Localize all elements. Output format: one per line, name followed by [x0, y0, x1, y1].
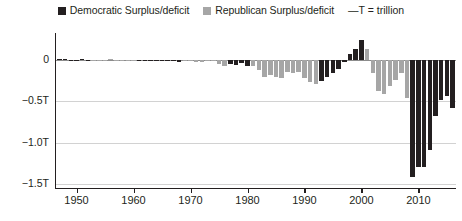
gridline-05T: [56, 101, 456, 102]
x-axis-tick-label: 1960: [121, 194, 145, 206]
bar-1987: [285, 60, 290, 72]
bar-1982: [257, 60, 262, 71]
x-axis-tick: [248, 188, 249, 193]
bar-1992: [314, 60, 319, 84]
x-axis-tick-label: 2010: [406, 194, 430, 206]
bar-1954: [97, 60, 102, 61]
x-axis-tick: [134, 188, 135, 193]
y-axis-tick-label: −1.5T: [0, 178, 49, 189]
y-axis-tick-label: −0.5T: [0, 95, 49, 106]
x-axis-tick: [77, 188, 78, 193]
bar-1979: [239, 60, 244, 63]
x-axis-tick-label: 1950: [64, 194, 88, 206]
bar-1975: [217, 60, 222, 64]
bar-2012: [428, 60, 433, 150]
bar-1991: [308, 60, 313, 82]
bar-1969: [183, 60, 188, 61]
x-axis-tick: [361, 188, 362, 193]
bar-2013: [433, 60, 438, 116]
bar-1976: [222, 60, 227, 66]
bar-1959: [126, 60, 131, 61]
bar-2014: [439, 60, 444, 100]
bar-1949: [69, 60, 74, 61]
bar-2006: [393, 60, 398, 81]
bar-1956: [108, 59, 113, 60]
x-axis-tick-label: 1970: [178, 194, 202, 206]
bar-1957: [114, 60, 119, 61]
budget-deficit-chart: Democratic Surplus/deficit Republican Su…: [0, 0, 462, 221]
bar-1958: [120, 60, 125, 61]
y-axis-tick-label: 0: [0, 54, 49, 65]
bar-1995: [331, 60, 336, 74]
square-swatch-icon: [203, 7, 211, 15]
bar-2003: [376, 60, 381, 91]
chart-legend: Democratic Surplus/deficit Republican Su…: [0, 5, 462, 16]
bar-1989: [296, 60, 301, 73]
legend-label-republican: Republican Surplus/deficit: [215, 5, 334, 16]
bar-1990: [302, 60, 307, 78]
bar-2000: [359, 40, 364, 60]
bar-1994: [325, 60, 330, 77]
bar-2010: [416, 60, 421, 167]
bar-1962: [143, 60, 148, 61]
bar-2004: [382, 60, 387, 94]
bar-1998: [348, 54, 353, 60]
bar-1971: [194, 60, 199, 62]
bar-1955: [103, 60, 108, 61]
gridline-15T: [56, 184, 456, 185]
plot-area: [56, 35, 456, 188]
bar-1964: [154, 60, 159, 61]
x-axis-tick-label: 1990: [292, 194, 316, 206]
bar-1999: [353, 49, 358, 59]
bar-1986: [279, 60, 284, 78]
bar-2007: [399, 60, 404, 73]
bar-1993: [319, 60, 324, 81]
x-axis-line: [55, 188, 456, 189]
legend-label-democratic: Democratic Surplus/deficit: [70, 5, 189, 16]
bar-1965: [160, 60, 165, 61]
x-axis-tick: [304, 188, 305, 193]
x-axis-tick: [418, 188, 419, 193]
bar-2001: [365, 49, 370, 60]
bar-1963: [148, 60, 153, 61]
bar-1973: [205, 60, 210, 61]
bar-1983: [262, 60, 267, 77]
bar-1952: [86, 60, 91, 61]
bar-2008: [405, 60, 410, 98]
bar-1953: [91, 60, 96, 61]
bar-1977: [228, 60, 233, 64]
bar-1960: [131, 60, 136, 61]
bar-1967: [171, 60, 176, 61]
bar-1968: [177, 60, 182, 62]
bar-1947: [57, 59, 62, 60]
bar-1978: [234, 60, 239, 65]
x-axis-tick-label: 2000: [349, 194, 373, 206]
bar-1950: [74, 60, 79, 61]
bar-1948: [63, 59, 68, 60]
bar-1980: [245, 60, 250, 66]
square-swatch-icon: [58, 7, 66, 15]
bar-1972: [200, 60, 205, 62]
bar-1974: [211, 60, 216, 61]
bar-1966: [165, 60, 170, 61]
bar-1984: [268, 60, 273, 75]
x-axis-tick: [191, 188, 192, 193]
bar-2016: [450, 60, 455, 109]
legend-item-democratic: Democratic Surplus/deficit: [58, 5, 189, 16]
bar-1961: [137, 60, 142, 61]
bar-1988: [291, 60, 296, 73]
bar-2011: [422, 60, 427, 168]
bar-2009: [410, 60, 415, 177]
y-axis-tick-label: −1.0T: [0, 137, 49, 148]
bar-1996: [336, 60, 341, 69]
legend-note-trillion: —T = trillion: [348, 5, 404, 16]
bar-1997: [342, 60, 347, 62]
legend-item-republican: Republican Surplus/deficit: [203, 5, 334, 16]
gridline-10T: [56, 143, 456, 144]
bar-1970: [188, 60, 193, 61]
bar-1985: [274, 60, 279, 78]
bar-1951: [80, 59, 85, 60]
bar-2002: [371, 60, 376, 73]
x-axis-tick-label: 1980: [235, 194, 259, 206]
bar-1981: [251, 60, 256, 67]
